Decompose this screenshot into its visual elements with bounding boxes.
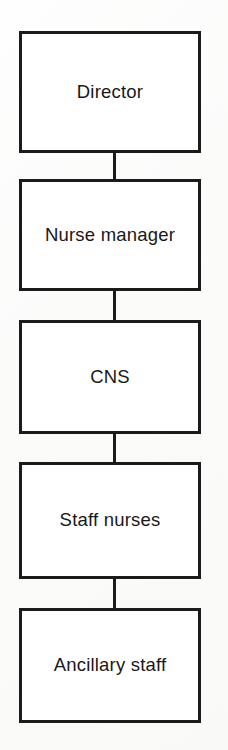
org-node-label: Staff nurses <box>60 510 161 530</box>
org-node-director: Director <box>19 31 201 153</box>
org-node-cns: CNS <box>19 320 201 434</box>
org-node-label: Director <box>77 82 143 102</box>
connector-director-to-nurse-manager <box>113 150 116 181</box>
org-node-label: CNS <box>90 367 130 387</box>
org-chart-diagram: Director Nurse manager CNS Staff nurses … <box>0 0 228 750</box>
org-node-label: Ancillary staff <box>54 655 167 675</box>
org-node-nurse-manager: Nurse manager <box>19 179 201 291</box>
org-node-label: Nurse manager <box>45 225 175 245</box>
org-node-staff-nurses: Staff nurses <box>19 462 201 579</box>
connector-cns-to-staff-nurses <box>113 431 116 464</box>
org-node-ancillary-staff: Ancillary staff <box>19 608 201 723</box>
connector-nurse-manager-to-cns <box>113 288 116 322</box>
connector-staff-nurses-to-ancillary-staff <box>113 576 116 610</box>
